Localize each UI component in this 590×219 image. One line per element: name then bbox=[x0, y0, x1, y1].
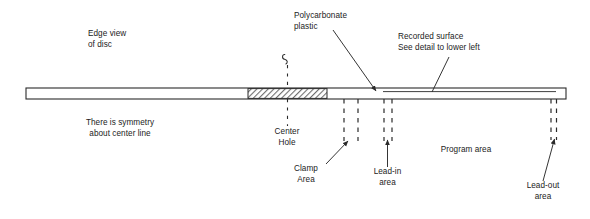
recorded-surface-leader-arrow bbox=[432, 57, 449, 92]
program-area-label: Program area bbox=[431, 145, 501, 156]
lead-out-leader-arrow bbox=[543, 139, 555, 181]
center-hole-curl-mark bbox=[283, 54, 288, 64]
center-hole-label: Center Hole bbox=[259, 127, 315, 148]
polycarbonate-plastic-label: Polycarbonate plastic bbox=[294, 11, 347, 32]
lead-out-area-label: Lead-out area bbox=[516, 181, 570, 202]
clamp-area-leader-arrow bbox=[326, 141, 348, 164]
symmetry-label: There is symmetry about center line bbox=[56, 118, 184, 139]
clamp-area-label: Clamp Area bbox=[280, 164, 332, 185]
hatched-hub-section bbox=[248, 89, 327, 99]
polycarbonate-leader-arrow bbox=[333, 30, 376, 91]
lead-in-area-label: Lead-in area bbox=[361, 167, 414, 188]
edge-view-label: Edge view of disc bbox=[88, 29, 126, 50]
disc-edge-view-diagram: Edge view of disc There is symmetry abou… bbox=[0, 0, 590, 219]
recorded-surface-label: Recorded surface See detail to lower lef… bbox=[398, 32, 480, 53]
